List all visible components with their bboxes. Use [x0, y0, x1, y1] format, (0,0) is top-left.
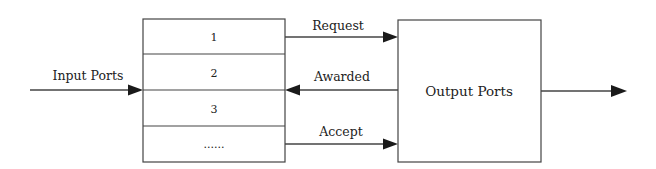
input-ports-connector: Input Ports [30, 68, 143, 96]
output-ports-label: Output Ports [425, 83, 513, 99]
buffer-slot-ellipsis: ...... [204, 138, 225, 151]
input-arrowhead-icon [128, 85, 143, 96]
output-ports-block: Output Ports [398, 20, 541, 162]
request-signal: Request [285, 18, 398, 43]
buffer-slot-1: 1 [211, 31, 218, 44]
input-buffer-stack: 1 2 3 ...... [143, 19, 285, 162]
buffer-slot-3: 3 [211, 103, 218, 116]
output-connector [541, 85, 627, 97]
awarded-label: Awarded [313, 69, 370, 84]
awarded-arrowhead-icon [285, 85, 300, 96]
accept-signal: Accept [285, 124, 398, 150]
output-arrowhead-icon [611, 85, 627, 97]
crossbar-arbitration-diagram: Input Ports 1 2 3 ...... Request Awarded… [0, 0, 656, 169]
input-ports-label: Input Ports [53, 68, 124, 83]
buffer-slot-2: 2 [211, 67, 218, 80]
request-label: Request [312, 18, 364, 33]
accept-label: Accept [318, 124, 362, 139]
awarded-signal: Awarded [285, 69, 398, 96]
accept-arrowhead-icon [383, 139, 398, 150]
request-arrowhead-icon [383, 32, 398, 43]
